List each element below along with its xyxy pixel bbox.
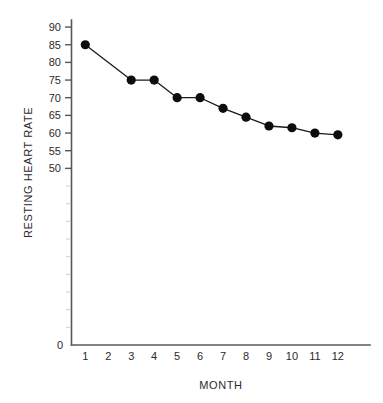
data-point-marker [218, 104, 227, 113]
data-point-marker [310, 128, 319, 137]
y-tick-label: 85 [49, 39, 61, 51]
x-tick-label: 1 [82, 350, 88, 362]
series-line-resting-heart-rate [85, 45, 338, 135]
data-point-marker [173, 93, 182, 102]
x-tick-label: 12 [332, 350, 344, 362]
x-tick-label: 4 [151, 350, 157, 362]
data-point-marker [81, 40, 90, 49]
y-tick-label: 60 [49, 127, 61, 139]
x-tick-label: 8 [243, 350, 249, 362]
x-tick-label: 11 [309, 350, 320, 362]
y-tick-label: 75 [49, 74, 61, 86]
x-tick-label: 10 [286, 350, 298, 362]
x-tick-label: 2 [105, 350, 111, 362]
x-tick-label: 3 [128, 350, 134, 362]
y-axis-tick-labels: 908580757065605550 [49, 21, 61, 174]
x-axis-title: MONTH [199, 379, 242, 391]
y-axis-title: RESTING HEART RATE [22, 107, 34, 238]
resting-heart-rate-chart: 908580757065605550 123456789101112 0 MON… [0, 0, 383, 403]
data-point-marker [241, 113, 250, 122]
x-tick-label: 7 [220, 350, 226, 362]
data-point-marker [287, 123, 296, 132]
data-point-marker [195, 93, 204, 102]
y-tick-label: 65 [49, 109, 61, 121]
x-tick-label: 6 [197, 350, 203, 362]
series-markers [81, 40, 343, 139]
x-tick-label: 9 [266, 350, 272, 362]
data-point-marker [150, 75, 159, 84]
chart-canvas: 908580757065605550 123456789101112 0 MON… [0, 0, 383, 403]
data-point-marker [127, 75, 136, 84]
x-tick-label: 5 [174, 350, 180, 362]
data-point-marker [264, 121, 273, 130]
y-tick-label: 90 [49, 21, 61, 33]
x-axis-tick-labels: 123456789101112 [82, 350, 344, 362]
y-tick-label: 55 [49, 145, 61, 157]
data-point-marker [333, 130, 342, 139]
y-axis-origin-label: 0 [57, 339, 63, 351]
y-tick-label: 50 [49, 162, 61, 174]
y-tick-label: 80 [49, 56, 61, 68]
y-axis-minor-ticks [66, 186, 70, 327]
y-tick-label: 70 [49, 92, 61, 104]
